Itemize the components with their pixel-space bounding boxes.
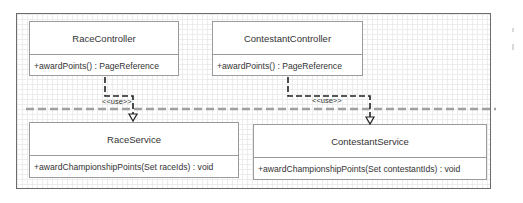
class-race-controller[interactable]: RaceController +awardPoints() : PageRefe… xyxy=(29,21,179,76)
class-operation: +awardChampionshipPoints(Set contestantI… xyxy=(254,158,486,179)
margin-mark xyxy=(512,28,514,32)
stereotype-label-contestant: <<use>> xyxy=(312,96,342,105)
class-contestant-controller[interactable]: ContestantController +awardPoints() : Pa… xyxy=(212,21,363,76)
margin-mark xyxy=(512,44,514,50)
class-name: ContestantService xyxy=(254,125,486,158)
class-operation: +awardPoints() : PageReference xyxy=(30,55,178,76)
class-name: RaceController xyxy=(30,22,178,55)
class-race-service[interactable]: RaceService +awardChampionshipPoints(Set… xyxy=(29,122,239,178)
class-name: RaceService xyxy=(30,123,238,156)
class-contestant-service[interactable]: ContestantService +awardChampionshipPoin… xyxy=(253,124,487,180)
class-operation: +awardChampionshipPoints(Set raceIds) : … xyxy=(30,156,238,177)
class-operation: +awardPoints() : PageReference xyxy=(213,55,362,76)
class-name: ContestantController xyxy=(213,22,362,55)
stereotype-label-race: <<use>> xyxy=(102,97,132,106)
